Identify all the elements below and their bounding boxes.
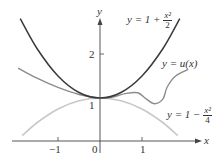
upper-label-denominator: 2 <box>163 21 172 30</box>
y-axis-label: y <box>97 6 102 17</box>
x-axis-arrow-icon <box>195 139 202 144</box>
x-axis-label: x <box>204 135 209 146</box>
x-tick-label-0: 0 <box>92 144 98 155</box>
upper-curve-label: y = 1 + x²2 <box>127 11 172 30</box>
lower-curve-label: y = 1 − x²4 <box>167 106 212 125</box>
x-tick-label-1: 1 <box>140 144 146 155</box>
u-curve-label: y = u(x) <box>162 58 198 69</box>
lower-label-text: y = 1 − <box>167 108 203 120</box>
y-tick-label-2: 2 <box>89 49 95 60</box>
chart-canvas <box>0 0 222 157</box>
lower-label-fraction: x²4 <box>203 106 212 125</box>
x-tick-label-neg1: −1 <box>49 144 61 155</box>
upper-label-fraction: x²2 <box>163 11 172 30</box>
lower-label-denominator: 4 <box>203 116 212 125</box>
y-axis-arrow-icon <box>98 18 103 25</box>
y-tick-label-1: 1 <box>89 100 95 111</box>
upper-label-text: y = 1 + <box>127 13 163 25</box>
